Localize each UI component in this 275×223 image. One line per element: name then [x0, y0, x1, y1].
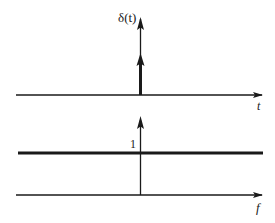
t-axis-label: t [257, 99, 261, 113]
signal-label: δ(t) [118, 10, 136, 25]
frequency-domain-panel: 1 f [16, 116, 263, 215]
level-label: 1 [130, 137, 136, 151]
time-domain-panel: δ(t) t [16, 10, 262, 113]
f-axis-label: f [256, 200, 262, 215]
impulse-fourier-diagram: δ(t) t 1 f [0, 0, 275, 223]
diagram-canvas: δ(t) t 1 f [0, 0, 275, 223]
